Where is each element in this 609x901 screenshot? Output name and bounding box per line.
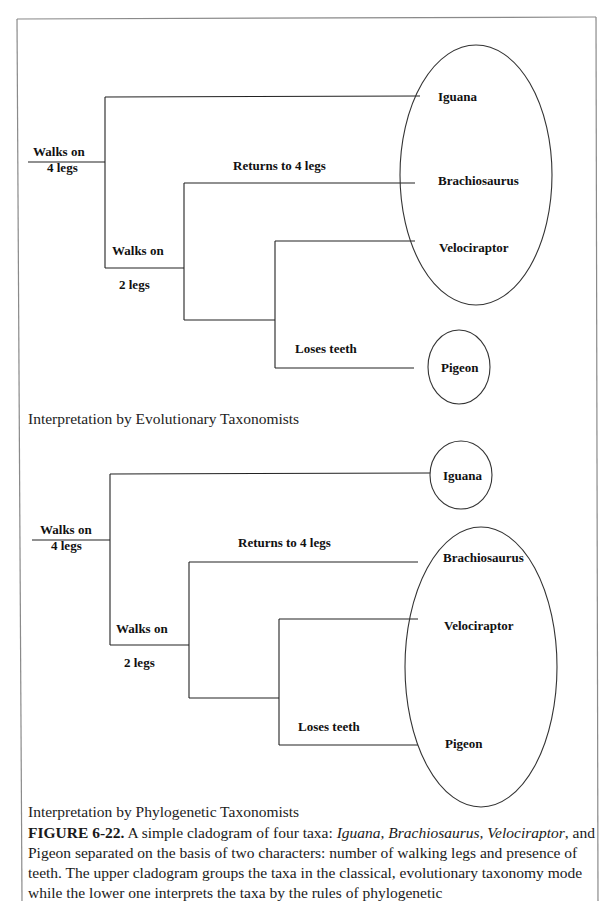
lower-labels: Walks on 4 legs Returns to 4 legs Walks … (28, 468, 524, 820)
caption-text-1: A simple cladogram of four taxa: (124, 824, 336, 841)
lower-char-returns: Returns to 4 legs (238, 535, 331, 550)
lower-char-loses-teeth: Loses teeth (298, 719, 361, 734)
lower-char-node2-top: Walks on (116, 621, 168, 636)
lower-group-ellipse-large (405, 527, 557, 807)
lower-taxon-velociraptor: Velociraptor (444, 618, 514, 633)
upper-taxon-velociraptor: Velociraptor (439, 240, 509, 255)
upper-title: Interpretation by Evolutionary Taxonomis… (28, 410, 299, 427)
upper-char-node2-top: Walks on (112, 243, 164, 258)
upper-char-root-top: Walks on (33, 144, 85, 159)
upper-taxon-brachiosaurus: Brachiosaurus (438, 173, 519, 188)
figure-frame (17, 17, 598, 901)
upper-taxon-iguana: Iguana (438, 89, 478, 104)
lower-char-node2-bottom: 2 legs (124, 655, 155, 670)
upper-taxon-pigeon: Pigeon (441, 360, 479, 375)
upper-char-loses-teeth: Loses teeth (295, 341, 358, 356)
lower-taxon-iguana: Iguana (443, 468, 483, 483)
upper-char-root-bottom: 4 legs (47, 160, 78, 175)
caption-label: FIGURE 6-22. (28, 824, 124, 841)
cladogram-figure: Walks on 4 legs Returns to 4 legs Walks … (0, 0, 609, 901)
lower-title: Interpretation by Phylogenetic Taxonomis… (28, 803, 299, 820)
upper-char-node2-bottom: 2 legs (119, 277, 150, 292)
lower-char-root-top: Walks on (40, 522, 92, 537)
lower-char-root-bottom: 4 legs (51, 538, 82, 553)
lower-taxon-pigeon: Pigeon (445, 736, 483, 751)
figure-caption: FIGURE 6-22. A simple cladogram of four … (28, 823, 598, 901)
lower-taxon-brachiosaurus: Brachiosaurus (443, 550, 524, 565)
upper-labels: Walks on 4 legs Returns to 4 legs Walks … (28, 89, 519, 427)
caption-italic-taxa: Iguana, Brachiosaurus, Velociraptor (337, 824, 565, 841)
upper-char-returns: Returns to 4 legs (233, 158, 326, 173)
